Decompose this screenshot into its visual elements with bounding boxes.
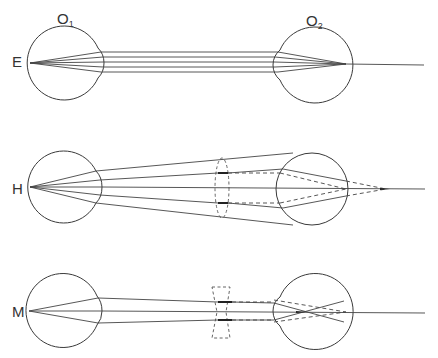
observer-2-label: O2 (306, 12, 323, 31)
eye-o2-m (273, 273, 353, 349)
row-label-h: H (12, 180, 23, 197)
eye-o1-m (26, 274, 102, 348)
row-label-e: E (12, 53, 22, 70)
concave-lens (212, 287, 230, 338)
row-emmetropia: E (12, 26, 424, 103)
rays-h (30, 153, 425, 225)
optics-diagram: O1 O2 E H (0, 0, 438, 358)
row-hyperopia: H (12, 151, 425, 225)
rays-m (29, 298, 425, 323)
row-label-m: M (12, 303, 25, 320)
eye-o2-h (276, 153, 348, 225)
rays-e (30, 52, 424, 72)
row-myopia: M (12, 273, 425, 349)
focus-mark-h (380, 188, 390, 190)
